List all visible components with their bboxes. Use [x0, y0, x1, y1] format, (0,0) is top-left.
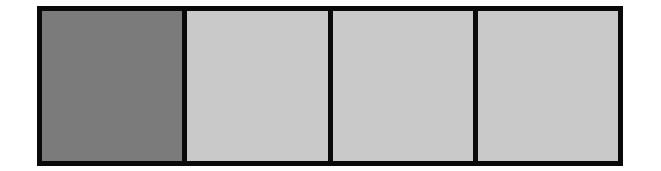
- segment-strip: [37, 6, 623, 166]
- segment-cell-3: [333, 11, 473, 161]
- segment-cell-1: [42, 11, 182, 161]
- segment-cell-4: [478, 11, 618, 161]
- segment-cell-2: [187, 11, 327, 161]
